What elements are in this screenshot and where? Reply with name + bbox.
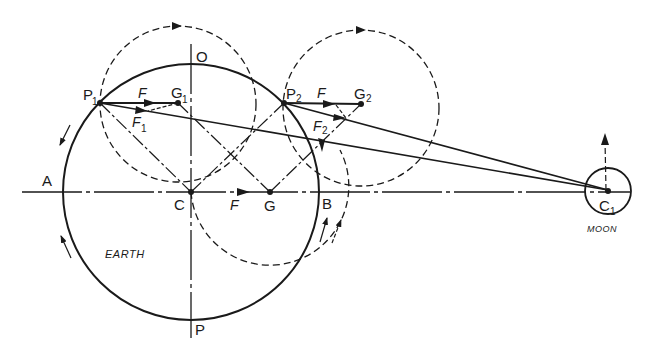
label-c1: C — [599, 197, 610, 214]
label-c: C — [174, 196, 185, 213]
label-p2-sub: 2 — [296, 93, 302, 104]
label-o: O — [196, 48, 208, 65]
rotation-arrow-lower-left — [61, 236, 71, 258]
label-g2-sub: 2 — [366, 93, 372, 104]
tidal-force-diagram: O P A B C G P 1 G 1 P 2 G 2 C 1 F F F F … — [0, 0, 665, 350]
label-g1: G — [171, 84, 183, 101]
rotation-arrow-lower-right — [320, 218, 341, 243]
label-f1-sub: 1 — [141, 123, 147, 134]
label-f-center: F — [230, 197, 240, 213]
label-f2-sub: 2 — [322, 125, 328, 136]
label-g1-sub: 1 — [182, 94, 188, 105]
label-moon: MOON — [587, 224, 617, 234]
label-p2: P — [286, 85, 296, 102]
rotation-arrow-upper-left — [60, 125, 70, 145]
label-earth: EARTH — [105, 248, 145, 260]
label-p1-sub: 1 — [92, 96, 98, 107]
points — [97, 100, 611, 195]
label-f-top1: F — [138, 85, 148, 101]
label-a: A — [42, 172, 52, 189]
label-g: G — [264, 197, 276, 214]
label-p: P — [195, 321, 205, 338]
label-f-top2: F — [317, 85, 327, 101]
lines-to-moon — [100, 103, 608, 190]
label-c1-sub: 1 — [610, 206, 616, 217]
label-b: B — [322, 195, 332, 212]
label-g2: G — [354, 85, 366, 102]
force-vector-center — [237, 188, 250, 196]
moon-motion-arrow — [601, 133, 609, 190]
